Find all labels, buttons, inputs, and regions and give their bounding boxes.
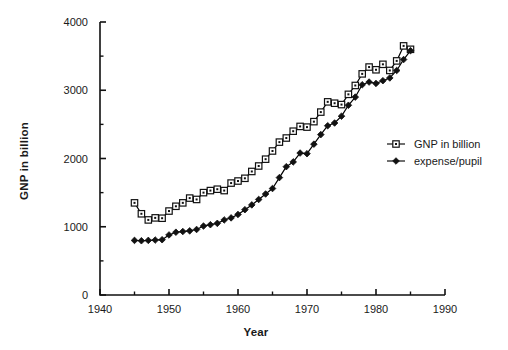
data-series-lines (135, 46, 411, 241)
legend-item-label: GNP in billion (414, 138, 480, 150)
y-tick-label: 1000 (40, 221, 88, 233)
y-tick-label: 3000 (40, 84, 88, 96)
x-axis-title: Year (196, 326, 316, 338)
y-axis-title: GNP in billion (18, 101, 30, 221)
chart-screenshot: GNP in billion Year 01000200030004000 19… (0, 0, 508, 350)
x-tick-label: 1940 (88, 303, 112, 315)
data-series-markers (131, 43, 414, 244)
x-tick-label: 1990 (433, 303, 457, 315)
y-tick-label: 0 (40, 289, 88, 301)
x-tick-label: 1950 (157, 303, 181, 315)
y-tick-label: 4000 (40, 16, 88, 28)
x-tick-label: 1960 (226, 303, 250, 315)
legend-markers (387, 141, 405, 165)
x-tick-label: 1980 (364, 303, 388, 315)
x-tick-label: 1970 (295, 303, 319, 315)
legend-item-label: expense/pupil (414, 155, 482, 167)
y-tick-label: 2000 (40, 153, 88, 165)
